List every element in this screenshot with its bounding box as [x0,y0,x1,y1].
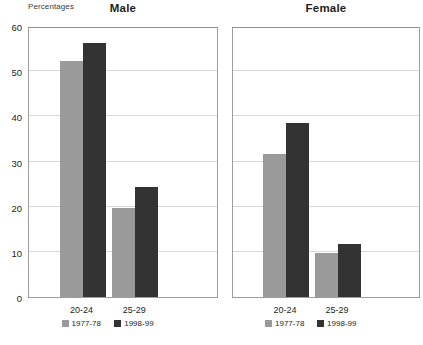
panel-title-male: Male [28,2,218,14]
legend-label: 1998-99 [327,319,356,328]
y-axis-tick-label: 10 [11,247,22,258]
plot-area-female [232,27,420,298]
y-axis-tick-label: 50 [11,67,22,78]
bar-female-20-24-1977-78 [263,154,286,297]
y-axis-tick-label: 60 [11,22,22,33]
legend-label: 1977-78 [275,319,304,328]
category-label: 25-29 [123,305,146,315]
bar-male-25-29-1998-99 [135,187,158,297]
legend-swatch-icon [62,320,69,327]
y-axis-tick-label: 20 [11,202,22,213]
panel-male: Male 20-2425-291977-781998-99 [28,27,218,298]
y-axis-tick-label: 40 [11,112,22,123]
bar-female-25-29-1977-78 [315,253,338,297]
legend-item-1977-78: 1977-78 [265,319,304,328]
legend-label: 1998-99 [124,319,153,328]
gridline [29,70,217,71]
bar-male-20-24-1998-99 [83,43,106,297]
panel-title-female: Female [232,2,420,14]
chart-figure: Percentages 0102030405060 Male 20-2425-2… [0,0,423,345]
plot-area-male [28,27,218,298]
gridline [233,115,419,116]
legend-item-1977-78: 1977-78 [62,319,101,328]
legend-item-1998-99: 1998-99 [317,319,356,328]
gridline [29,115,217,116]
bar-female-20-24-1998-99 [286,123,309,297]
gridline [29,206,217,207]
bar-female-25-29-1998-99 [338,244,361,297]
legend-label: 1977-78 [72,319,101,328]
y-axis-tick-label: 30 [11,157,22,168]
category-label: 20-24 [273,305,296,315]
y-axis: 0102030405060 [0,27,26,298]
gridline [233,161,419,162]
gridline [29,161,217,162]
gridline [233,206,419,207]
gridline [233,251,419,252]
legend-item-1998-99: 1998-99 [114,319,153,328]
legend-swatch-icon [114,320,121,327]
gridline [233,70,419,71]
category-label: 25-29 [326,305,349,315]
y-axis-tick-label: 0 [17,293,22,304]
category-label: 20-24 [70,305,93,315]
legend-swatch-icon [265,320,272,327]
legend-swatch-icon [317,320,324,327]
bar-male-25-29-1977-78 [112,208,135,297]
panel-female: Female 20-2425-291977-781998-99 [232,27,420,298]
bar-male-20-24-1977-78 [60,61,83,297]
